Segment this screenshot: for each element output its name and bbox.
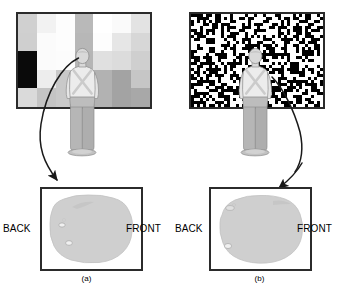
label-front-a: FRONT	[126, 224, 161, 234]
scene-b	[173, 0, 346, 168]
footprint-blob-a	[50, 195, 133, 263]
label-back-b: BACK	[175, 224, 203, 234]
panel-a: BACK FRONT (a)	[0, 0, 173, 295]
caption-b: (b)	[173, 275, 346, 283]
label-front-b: FRONT	[297, 224, 332, 234]
panel-b: BACK FRONT (b)	[173, 0, 346, 295]
label-back-a: BACK	[3, 224, 31, 234]
caption-a: (a)	[0, 275, 173, 283]
figure-root: BACK FRONT (a)	[0, 0, 346, 295]
scene-a	[0, 0, 173, 168]
